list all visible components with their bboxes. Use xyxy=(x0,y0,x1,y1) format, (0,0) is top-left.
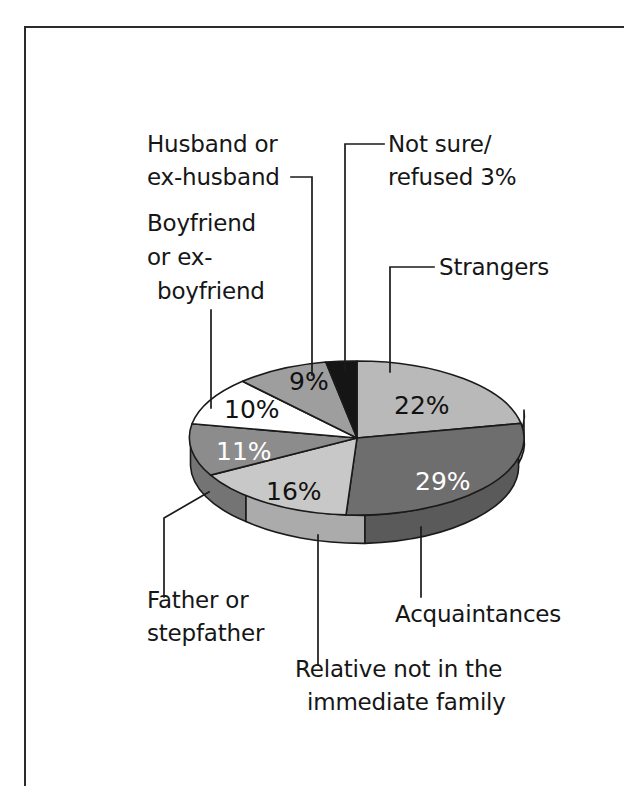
callout-relative-line2: immediate family xyxy=(307,689,506,715)
slice-label-husband: 9% xyxy=(289,367,329,396)
callout-boyfriend-line2: or ex- xyxy=(147,244,212,270)
slice-label-boyfriend: 10% xyxy=(224,395,280,424)
slice-label-acquaintances: 29% xyxy=(415,467,471,496)
callout-not-sure-line2: refused 3% xyxy=(388,164,516,190)
slice-label-strangers: 22% xyxy=(394,391,450,420)
leader-line-father xyxy=(164,492,209,597)
callout-father-line1: Father or xyxy=(147,587,249,613)
callout-boyfriend-line1: Boyfriend xyxy=(147,210,256,236)
callout-father-line2: stepfather xyxy=(147,620,265,646)
slice-label-relative: 16% xyxy=(266,477,322,506)
callout-husband-line2: ex-husband xyxy=(147,164,280,190)
callout-relative-line1: Relative not in the xyxy=(295,656,502,682)
callout-not-sure-line1: Not sure/ xyxy=(388,131,492,157)
leader-line-strangers xyxy=(390,267,434,372)
slice-label-father: 11% xyxy=(216,437,272,466)
leader-line-husband xyxy=(291,177,312,375)
leader-line-not-sure xyxy=(345,144,384,372)
callout-acquaintances-line1: Acquaintances xyxy=(395,601,561,627)
callout-strangers-line1: Strangers xyxy=(439,254,549,280)
callout-boyfriend-line3: boyfriend xyxy=(157,278,265,304)
callout-husband-line1: Husband or xyxy=(147,131,278,157)
